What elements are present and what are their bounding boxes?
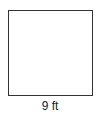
side-length-label: 9 ft <box>0 99 100 113</box>
square-shape <box>8 10 93 96</box>
